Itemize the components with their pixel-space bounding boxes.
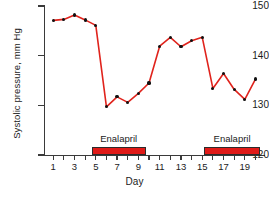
series-line — [0, 0, 269, 200]
data-point — [254, 77, 257, 80]
data-point — [147, 81, 150, 84]
data-point — [73, 13, 76, 16]
data-point — [201, 36, 204, 39]
data-point — [169, 36, 172, 39]
data-point — [233, 88, 236, 91]
data-point — [179, 45, 182, 48]
data-point — [84, 18, 87, 21]
data-point — [52, 19, 55, 22]
chart-figure: Systolic pressure, mm Hg Day 12013014015… — [0, 0, 269, 200]
data-point — [137, 92, 140, 95]
